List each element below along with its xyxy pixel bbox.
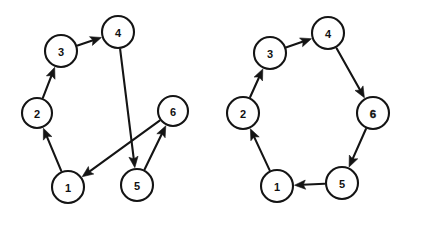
node-label: 1 <box>274 181 280 193</box>
graph-node-6[interactable]: 6 <box>158 96 188 126</box>
node-label: 2 <box>240 108 246 120</box>
edge-2-to-3 <box>250 69 263 97</box>
node-label: 2 <box>34 108 40 120</box>
node-label: 5 <box>339 178 345 190</box>
node-label: 3 <box>58 46 64 58</box>
edge-4-to-5 <box>120 49 138 167</box>
graph-node-2[interactable]: 2 <box>227 97 259 129</box>
graph-node-3[interactable]: 3 <box>254 37 286 69</box>
graph-node-1[interactable]: 1 <box>261 170 293 202</box>
node-label: 5 <box>134 180 140 192</box>
graph-node-5[interactable]: 5 <box>326 167 358 199</box>
edge-3-to-4 <box>78 37 102 46</box>
graph-node-5[interactable]: 5 <box>121 169 153 201</box>
node-label: 6 <box>170 106 176 118</box>
edge-1-to-2 <box>43 128 61 171</box>
node-label: 6 <box>370 108 376 120</box>
edge-2-to-3 <box>43 67 55 97</box>
graph-node-6[interactable]: 6 <box>357 97 389 129</box>
hamiltonian-cycle-graph-nodes: 123456 <box>227 17 389 202</box>
node-label: 3 <box>267 48 273 60</box>
edges-layer <box>43 37 366 190</box>
edge-3-to-4 <box>287 38 312 47</box>
edge-1-to-2 <box>250 129 269 170</box>
graph-canvas: 123456123456 <box>0 0 421 231</box>
graph-node-1[interactable]: 1 <box>52 171 84 203</box>
edge-6-to-1 <box>82 121 159 177</box>
graph-node-4[interactable]: 4 <box>312 17 344 49</box>
node-label: 4 <box>325 28 332 40</box>
arrowhead-icon <box>82 167 94 177</box>
graph-node-3[interactable]: 3 <box>45 35 77 67</box>
edge-5-to-1 <box>294 180 324 189</box>
edge-5-to-6 <box>145 126 166 169</box>
node-label: 1 <box>65 182 71 194</box>
node-label: 4 <box>115 27 122 39</box>
figure-root: 123456123456 <box>0 0 421 231</box>
edge-6-to-5 <box>349 129 366 167</box>
graph-node-2[interactable]: 2 <box>22 98 52 128</box>
graph-node-4[interactable]: 4 <box>102 16 134 48</box>
edge-4-to-6 <box>337 48 365 98</box>
nodes-layer: 123456123456 <box>22 16 389 203</box>
non-hamiltonian-ordering-graph-nodes: 123456 <box>22 16 188 203</box>
